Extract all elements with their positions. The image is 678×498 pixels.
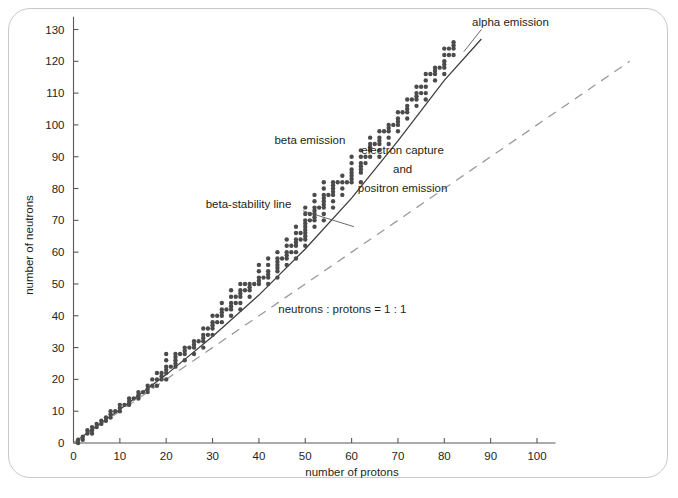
data-point [234, 294, 238, 298]
data-point [164, 364, 168, 368]
data-point [280, 256, 284, 260]
data-point [266, 269, 270, 273]
data-point [238, 288, 242, 292]
data-point [428, 72, 432, 76]
data-point [340, 193, 344, 197]
data-point [345, 180, 349, 184]
data-point [145, 384, 149, 388]
data-point [322, 193, 326, 197]
data-point [298, 237, 302, 241]
data-point [169, 364, 173, 368]
data-point [215, 320, 219, 324]
data-point [442, 53, 446, 57]
annotation-electron-capture-line1: electron capture [361, 144, 443, 156]
data-point [229, 294, 233, 298]
nuclide-stability-chart: 0102030405060708090100010203040506070809… [0, 0, 678, 498]
data-point [447, 53, 451, 57]
x-tick-label: 60 [345, 450, 358, 462]
data-point [419, 85, 423, 89]
data-point [224, 307, 228, 311]
annotation-beta-stability-line-label: beta-stability line [206, 198, 292, 210]
y-axis-title: number of neutrons [23, 195, 35, 295]
data-point [289, 250, 293, 254]
data-point [257, 263, 261, 267]
y-tick-label: 60 [52, 246, 65, 258]
data-point [150, 377, 154, 381]
data-point [386, 135, 390, 139]
data-point [238, 282, 242, 286]
data-point [396, 116, 400, 120]
data-point [405, 104, 409, 108]
data-point [266, 263, 270, 267]
data-point [442, 59, 446, 63]
data-point [442, 72, 446, 76]
data-point [178, 352, 182, 356]
data-point [285, 237, 289, 241]
data-point [382, 129, 386, 133]
data-point [424, 85, 428, 89]
data-point [150, 384, 154, 388]
data-point [266, 256, 270, 260]
data-point [220, 301, 224, 305]
data-point [164, 352, 168, 356]
data-point [192, 339, 196, 343]
data-point [335, 180, 339, 184]
data-point [322, 180, 326, 184]
data-point [118, 403, 122, 407]
data-point [261, 275, 265, 279]
data-point [442, 46, 446, 50]
data-point [155, 371, 159, 375]
data-point [99, 419, 103, 423]
data-point [196, 339, 200, 343]
data-point [113, 409, 117, 413]
data-point [414, 91, 418, 95]
data-point [331, 205, 335, 209]
data-point [132, 396, 136, 400]
data-point [257, 269, 261, 273]
data-point [414, 104, 418, 108]
annotation-ratio-label: neutrons : protons = 1 : 1 [278, 303, 406, 315]
data-point [234, 301, 238, 305]
data-point [201, 333, 205, 337]
data-point [437, 65, 441, 69]
data-point [159, 371, 163, 375]
annotation-beta-emission: beta emission [274, 134, 345, 146]
data-point [275, 250, 279, 254]
data-point [312, 225, 316, 229]
data-point [136, 390, 140, 394]
x-tick-label: 90 [484, 450, 497, 462]
data-point [396, 110, 400, 114]
data-point [451, 40, 455, 44]
data-point [183, 358, 187, 362]
data-point [247, 294, 251, 298]
data-point [229, 288, 233, 292]
data-point [243, 288, 247, 292]
data-point [424, 72, 428, 76]
x-tick-label: 50 [299, 450, 312, 462]
data-point [192, 352, 196, 356]
data-point [405, 116, 409, 120]
data-point [275, 275, 279, 279]
data-point [201, 345, 205, 349]
data-point [215, 314, 219, 318]
data-point [94, 422, 98, 426]
y-tick-label: 80 [52, 183, 65, 195]
data-point [349, 155, 353, 159]
data-point [349, 167, 353, 171]
data-point [164, 377, 168, 381]
y-tick-label: 30 [52, 342, 65, 354]
data-point [141, 390, 145, 394]
x-tick-label: 70 [392, 450, 405, 462]
data-point [294, 256, 298, 260]
data-point [127, 396, 131, 400]
y-tick-label: 70 [52, 214, 65, 226]
data-point [206, 326, 210, 330]
data-point [183, 345, 187, 349]
data-point [201, 326, 205, 330]
data-point [76, 438, 80, 442]
data-point [359, 161, 363, 165]
y-tick-label: 40 [52, 310, 65, 322]
data-point [424, 97, 428, 101]
data-point [396, 129, 400, 133]
data-point [210, 333, 214, 337]
